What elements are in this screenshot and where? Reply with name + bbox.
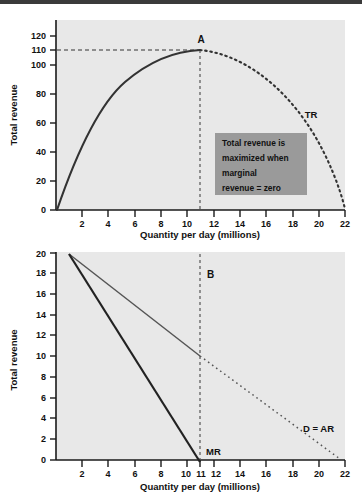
x-tick-label-16: 16 xyxy=(261,219,271,229)
y-tick-label-b-12: 12 xyxy=(36,330,46,340)
point-label-a: A xyxy=(197,34,204,45)
x-tick-label-b-4: 4 xyxy=(105,469,110,479)
y-tick-label-b-4: 4 xyxy=(41,413,46,423)
x-tick-label-18: 18 xyxy=(288,219,298,229)
x-axis-ticks xyxy=(82,210,345,217)
y-tick-label-b-0: 0 xyxy=(41,455,46,465)
x-tick-label-b-14: 14 xyxy=(235,469,245,479)
y-tick-label-b-2: 2 xyxy=(41,434,46,444)
x-tick-label-20: 20 xyxy=(314,219,324,229)
x-tick-label-b-16: 16 xyxy=(261,469,271,479)
x-tick-label-b-10: 10 xyxy=(181,469,191,479)
x-tick-label-b-22: 22 xyxy=(340,469,350,479)
x-tick-label-14: 14 xyxy=(235,219,245,229)
x-tick-label-b-11: 11 xyxy=(196,469,206,479)
x-tick-label-b-6: 6 xyxy=(132,469,137,479)
y-tick-label-20: 20 xyxy=(36,176,46,186)
x-axis-ticks-bottom xyxy=(82,460,345,467)
curve-label-mr: MR xyxy=(206,446,221,457)
x-tick-label-b-2: 2 xyxy=(79,469,84,479)
callout-line-1: Total revenue is xyxy=(222,138,285,148)
marginal-average-revenue-svg: 0 2 4 6 8 10 12 14 16 18 20 Total revenu… xyxy=(0,248,362,496)
y-tick-label-40: 40 xyxy=(36,147,46,157)
y-axis-title-bottom: Total revenue xyxy=(8,329,19,390)
x-tick-label-10: 10 xyxy=(182,219,192,229)
y-tick-label-b-6: 6 xyxy=(41,393,46,403)
y-tick-label-100: 100 xyxy=(31,60,46,70)
x-tick-label-2: 2 xyxy=(79,219,84,229)
callout-line-4: revenue = zero xyxy=(222,183,281,193)
total-revenue-svg: 0 20 40 60 80 100 110 120 Total revenue … xyxy=(0,12,362,240)
x-tick-label-12: 12 xyxy=(209,219,219,229)
y-axis-ticks-bottom xyxy=(50,253,56,460)
x-tick-label-22: 22 xyxy=(340,219,350,229)
x-tick-label-8: 8 xyxy=(158,219,163,229)
callout-total-revenue-note: Total revenue is maximized when marginal… xyxy=(215,133,307,195)
y-tick-label-b-8: 8 xyxy=(41,372,46,382)
curve-label-d-ar: D = AR xyxy=(303,423,334,434)
x-axis-title: Quantity per day (millions) xyxy=(140,229,260,240)
y-tick-label-120: 120 xyxy=(31,31,46,41)
y-tick-label-b-18: 18 xyxy=(36,268,46,278)
x-tick-label-4: 4 xyxy=(105,219,110,229)
y-tick-label-b-20: 20 xyxy=(36,249,46,259)
page-top-rule xyxy=(0,0,362,4)
x-tick-label-b-8: 8 xyxy=(158,469,163,479)
x-tick-label-b-20: 20 xyxy=(314,469,324,479)
y-axis-title: Total revenue xyxy=(8,84,19,145)
chart-panel-total-revenue: 0 20 40 60 80 100 110 120 Total revenue … xyxy=(0,12,362,240)
chart-panel-marginal-average-revenue: 0 2 4 6 8 10 12 14 16 18 20 Total revenu… xyxy=(0,248,362,496)
curve-label-tr: TR xyxy=(305,109,318,120)
y-tick-label-110: 110 xyxy=(31,45,46,55)
x-tick-label-6: 6 xyxy=(132,219,137,229)
y-tick-label-60: 60 xyxy=(36,118,46,128)
y-tick-label-80: 80 xyxy=(36,89,46,99)
x-axis-title-bottom: Quantity per day (millions) xyxy=(140,481,260,492)
y-tick-label-b-16: 16 xyxy=(36,289,46,299)
callout-line-2: maximized when xyxy=(222,153,289,163)
y-axis-ticks xyxy=(50,36,56,210)
x-tick-label-b-12: 12 xyxy=(211,469,221,479)
y-tick-label-0: 0 xyxy=(41,205,46,215)
y-tick-label-b-10: 10 xyxy=(36,351,46,361)
callout-line-3: marginal xyxy=(222,168,257,178)
x-tick-label-b-18: 18 xyxy=(288,469,298,479)
point-label-b: B xyxy=(207,269,214,280)
y-tick-label-b-14: 14 xyxy=(36,310,46,320)
